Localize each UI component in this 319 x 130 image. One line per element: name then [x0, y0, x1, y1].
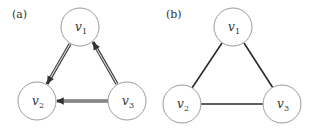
svg-text:v: v: [277, 97, 284, 111]
svg-text:1: 1: [82, 27, 87, 36]
svg-text:2: 2: [184, 104, 189, 113]
svg-text:1: 1: [235, 27, 240, 36]
svg-text:v: v: [32, 94, 39, 108]
arrow-icon: [48, 44, 71, 83]
edge-v3-v1: [93, 42, 117, 84]
svg-text:v: v: [122, 94, 129, 108]
edge-v1-v3: [244, 43, 273, 88]
svg-text:v: v: [75, 20, 82, 34]
node-v1: v 1: [214, 8, 252, 46]
node-v3: v 3: [108, 82, 146, 120]
svg-text:3: 3: [284, 104, 289, 113]
svg-text:3: 3: [129, 101, 134, 110]
svg-text:v: v: [177, 97, 184, 111]
graph-figure: (a) v 1 v 2 v 3: [0, 0, 319, 130]
panel-b: (b) v 1 v 2 v 3: [163, 8, 301, 123]
arrow-icon: [94, 43, 118, 84]
node-v2: v 2: [18, 82, 56, 120]
panel-b-label: (b): [166, 8, 182, 21]
node-v3: v 3: [263, 85, 301, 123]
node-v2: v 2: [163, 85, 201, 123]
edge-v1-v2: [192, 43, 222, 88]
panel-a-label: (a): [12, 8, 27, 21]
node-v1: v 1: [61, 8, 99, 46]
svg-text:v: v: [228, 20, 235, 34]
svg-text:2: 2: [39, 101, 44, 110]
edge-v1-v2: [47, 44, 70, 84]
panel-a: (a) v 1 v 2 v 3: [12, 8, 146, 120]
